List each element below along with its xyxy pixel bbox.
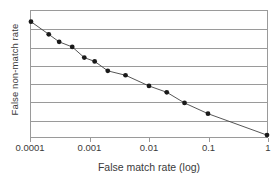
data-point-marker: [57, 40, 62, 45]
data-point-marker: [46, 32, 51, 37]
x-axis-tick-label: 0.1: [202, 142, 215, 153]
data-point-marker: [92, 59, 97, 64]
data-point-marker: [265, 133, 270, 138]
x-axis-title: False match rate (log): [30, 161, 268, 173]
x-axis-tick-label: 1: [265, 142, 270, 153]
data-point-marker: [147, 84, 152, 89]
data-point-marker: [105, 68, 110, 73]
series-line: [31, 22, 267, 135]
series-plot: [31, 11, 267, 137]
data-point-marker: [164, 90, 169, 95]
plot-area: [30, 10, 268, 138]
y-axis-title: False non-match rate: [0, 0, 30, 138]
data-point-marker: [123, 73, 128, 78]
y-axis-title-label: False non-match rate: [10, 23, 21, 115]
x-axis-tick-label: 0.001: [78, 142, 102, 153]
data-point-marker: [206, 111, 211, 116]
data-point-marker: [29, 19, 34, 24]
chart-figure: False non-match rate 0.00010.0010.010.11…: [0, 0, 280, 186]
x-axis-tick-label: 0.01: [140, 142, 159, 153]
x-axis-tick-label: 0.0001: [15, 142, 44, 153]
data-point-marker: [182, 101, 187, 106]
data-point-marker: [82, 55, 87, 60]
data-point-marker: [70, 45, 75, 50]
